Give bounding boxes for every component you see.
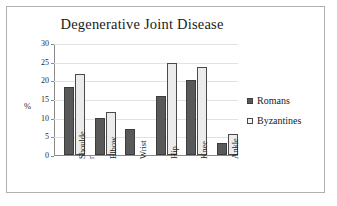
legend-label: Byzantines [257,115,301,126]
legend-item-romans[interactable]: Romans [247,95,301,106]
legend-label: Romans [257,95,290,106]
y-tick-mark [51,119,54,120]
y-tick-label: 0 [45,152,49,160]
bar-ankle-romans [217,143,227,155]
bar-shoulder-romans [64,87,74,155]
x-category-label-knee: Knee [200,141,209,159]
y-axis-title: % [24,102,31,111]
gridline [54,44,238,45]
x-category-label-hip: Hip [170,146,179,159]
bar-hip-byzantines [167,63,177,155]
chart-frame: Degenerative Joint Disease % 05101520253… [6,6,325,193]
bar-hip-romans [156,96,166,155]
bar-elbow-romans [95,118,105,155]
chart-legend: RomansByzantines [247,95,301,135]
y-tick-mark [51,81,54,82]
y-tick-mark [51,44,54,45]
y-tick-mark [51,100,54,101]
chart-title: Degenerative Joint Disease [7,16,277,33]
y-tick-mark [51,137,54,138]
legend-item-byzantines[interactable]: Byzantines [247,115,301,126]
x-category-label-wrist: Wrist [139,140,148,159]
gridline [54,63,238,64]
x-category-label-elbow: Elbow [109,137,118,159]
x-category-label-ankle: Ankle [231,138,240,159]
y-tick-label: 15 [41,96,49,104]
bar-knee-romans [186,80,196,155]
y-tick-label: 5 [45,133,49,141]
y-tick-label: 20 [41,77,49,85]
y-tick-label: 25 [41,59,49,67]
bar-wrist-romans [125,129,135,156]
outlined-square-icon [247,118,253,124]
y-tick-mark [51,156,54,157]
y-tick-mark [51,63,54,64]
y-tick-label: 30 [41,40,49,48]
x-category-label-shoulder: Shoulde r [78,131,96,159]
filled-square-icon [247,98,253,104]
y-tick-label: 10 [41,115,49,123]
